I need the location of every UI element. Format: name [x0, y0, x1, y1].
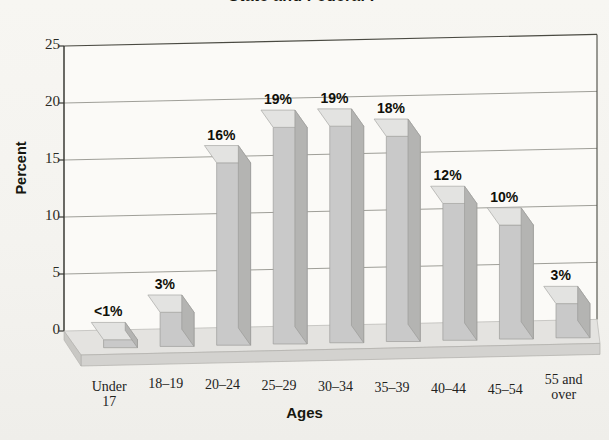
bar-value-label: <1% [75, 303, 141, 319]
bar-value-label: 16% [188, 127, 254, 143]
bar-value-label: 12% [415, 167, 481, 183]
bar-value-label: 3% [528, 267, 594, 283]
bar-value-label: 18% [358, 100, 424, 116]
bar-value-labels: <1%3%16%19%19%18%12%10%3% [0, 0, 609, 440]
figure-page: State and Federal P Percent Ages 2520151… [0, 0, 609, 440]
bar-value-label: 10% [471, 189, 537, 205]
bar-value-label: 3% [132, 276, 198, 292]
